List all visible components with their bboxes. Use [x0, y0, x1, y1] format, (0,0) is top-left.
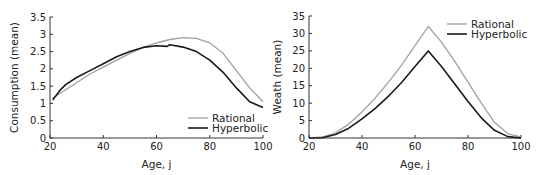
y-tick-label: 25 [292, 45, 305, 56]
y-tick-label: 1 [40, 98, 46, 109]
series-rational [53, 38, 263, 102]
legend-label: Hyperbolic [471, 28, 527, 40]
y-tick-label: 30 [292, 28, 305, 39]
figure: 2040608010000.511.522.533.5Age, jConsump… [0, 0, 545, 175]
x-tick-label: 40 [97, 141, 110, 152]
x-tick-label: 100 [511, 141, 530, 152]
y-axis-label: Consumption (mean) [8, 22, 20, 133]
x-tick-label: 100 [253, 141, 272, 152]
y-tick-label: 0.5 [30, 115, 46, 126]
y-tick-label: 3 [40, 29, 46, 40]
x-tick-label: 60 [150, 141, 163, 152]
y-tick-label: 3.5 [30, 12, 46, 23]
y-tick-label: 0 [40, 133, 46, 144]
x-axis-label: Age, j [142, 158, 172, 170]
x-tick-label: 40 [356, 141, 369, 152]
series-hyperbolic [309, 51, 521, 138]
y-tick-label: 1.5 [30, 81, 46, 92]
y-tick-label: 10 [292, 98, 305, 109]
x-axis-label: Age, j [400, 158, 430, 170]
x-tick-label: 80 [203, 141, 216, 152]
series-rational [309, 27, 521, 139]
x-tick-label: 60 [409, 141, 422, 152]
y-tick-label: 20 [292, 63, 305, 74]
y-tick-label: 2 [40, 63, 46, 74]
legend-label: Hyperbolic [212, 122, 268, 134]
x-tick-label: 80 [462, 141, 475, 152]
y-tick-label: 2.5 [30, 46, 46, 57]
y-axis-label: Weath (mean) [271, 40, 283, 115]
y-tick-label: 35 [292, 11, 305, 22]
wealth-chart: 2040608010005101520253035Age, jWeath (me… [271, 11, 531, 171]
consumption-chart: 2040608010000.511.522.533.5Age, jConsump… [8, 12, 273, 171]
series-hyperbolic [53, 45, 263, 108]
y-tick-label: 5 [299, 115, 305, 126]
y-tick-label: 0 [299, 133, 305, 144]
y-tick-label: 15 [292, 80, 305, 91]
